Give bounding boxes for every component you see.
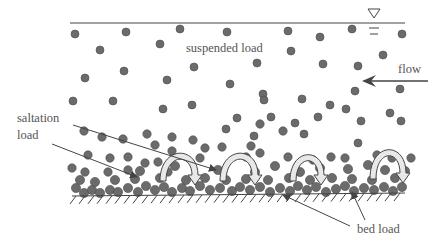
bed-hatch (304, 194, 310, 202)
bed-particle (215, 183, 224, 192)
suspended-particle (223, 28, 231, 36)
suspended-particle (354, 62, 362, 70)
suspended-particle (326, 101, 334, 109)
suspended-particle (287, 47, 295, 55)
bed-particle (305, 175, 314, 184)
bed-particle (150, 185, 159, 194)
suspended-particle (120, 67, 128, 75)
bed-load-label: bed load (357, 222, 400, 236)
bed-particle (245, 185, 254, 194)
suspended-particle (314, 113, 322, 121)
suspended-particle (357, 117, 365, 125)
bed-particle (110, 175, 119, 184)
suspended-particle (397, 117, 405, 125)
bed-hatch (160, 195, 166, 203)
bed-hatch (250, 194, 256, 202)
suspended-particle (188, 101, 196, 109)
bed-particle (380, 165, 389, 174)
suspended-particle (267, 113, 275, 121)
suspended-particle (71, 30, 79, 38)
leader-saltation-lower (52, 144, 137, 177)
saltation-particle (124, 166, 132, 174)
bed-hatch (178, 195, 184, 203)
sediment-transport-diagram: suspended load flow saltation load bed l… (0, 0, 443, 250)
bed-hatch (367, 193, 373, 201)
suspended-particle (342, 105, 350, 113)
bed-particle (397, 182, 406, 191)
bed-particle (205, 185, 214, 194)
suspended-particle (81, 74, 89, 82)
saltation-particle (104, 168, 112, 176)
bed-hatch (223, 195, 229, 203)
saltation-particle (68, 164, 76, 172)
diagram-canvas: suspended load flow saltation load bed l… (0, 0, 443, 250)
saltation-particle (284, 153, 292, 161)
suspended-particle (398, 30, 406, 38)
saltation-particle (154, 158, 162, 166)
bed-hatch (385, 193, 391, 201)
bed-hatch (340, 194, 346, 202)
bed-particle (123, 183, 132, 192)
saltation-load-label-line1: saltation (17, 111, 60, 125)
saltation-particle (327, 153, 335, 161)
suspended-particle (291, 119, 299, 127)
suspended-particle (163, 76, 171, 84)
suspended-particle (69, 97, 77, 105)
saltation-particle (256, 149, 264, 157)
saltation-load-label-line2: load (17, 128, 39, 142)
bed-particle (302, 185, 311, 194)
saltation-particle (106, 154, 114, 162)
bed-particle (293, 181, 302, 190)
saltation-particle (196, 154, 204, 162)
bed-particle (255, 182, 264, 191)
bed-particle (343, 164, 352, 173)
bed-particle (141, 181, 150, 190)
bed-hatch (106, 196, 112, 204)
suspended-load-label: suspended load (186, 41, 263, 55)
suspended-particle (386, 109, 394, 117)
suspended-particle (351, 87, 359, 95)
bed-particle (270, 161, 279, 170)
saltation-particle (168, 133, 176, 141)
bed-hatch (214, 195, 220, 203)
suspended-particle (226, 80, 234, 88)
bed-particle (275, 183, 284, 192)
bed-hatch (151, 195, 157, 203)
suspended-particle (109, 97, 117, 105)
bed-particle (327, 173, 336, 182)
bed-hatch (124, 195, 130, 203)
bed-particle (263, 175, 272, 184)
suspended-particle (396, 85, 404, 93)
bed-particle (105, 185, 114, 194)
bed-particle (135, 166, 144, 175)
saltation-hop-arrow-icon (220, 153, 262, 185)
bed-hatch (376, 193, 382, 201)
suspended-particle (319, 60, 327, 68)
saltation-particle (143, 130, 151, 138)
bed-particle (340, 181, 349, 190)
bed-particle (331, 184, 340, 193)
flow-arrow-icon (362, 75, 428, 87)
suspended-particle (233, 114, 241, 122)
bed-particle (185, 186, 194, 195)
leader-bed-left (283, 195, 350, 226)
saltation-particle (201, 144, 209, 152)
bed-hatch (277, 194, 283, 202)
saltation-particle (341, 154, 349, 162)
bed-particle (379, 182, 388, 191)
suspended-particle (316, 33, 324, 41)
suspended-particle (253, 59, 261, 67)
saltation-particle (151, 141, 159, 149)
bed-hatch (313, 194, 319, 202)
flow-label: flow (398, 62, 421, 76)
bed-hatch (241, 194, 247, 202)
bed-hatch (142, 195, 148, 203)
saltation-particle (81, 168, 89, 176)
suspended-particle (122, 28, 130, 36)
bed-particle (321, 187, 330, 196)
bed-hatch (358, 193, 364, 201)
suspended-particle (222, 125, 230, 133)
bed-particle (347, 174, 356, 183)
water-level-triangle-icon (368, 9, 380, 18)
leader-bed-right (352, 192, 365, 220)
